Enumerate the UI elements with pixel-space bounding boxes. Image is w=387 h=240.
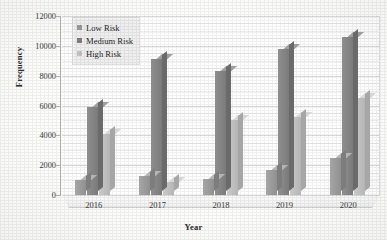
y-axis-tick-label: 2000 xyxy=(12,161,56,170)
bar-front-face xyxy=(330,158,341,195)
bar-side-face xyxy=(214,171,219,191)
bar xyxy=(266,170,277,195)
bar-side-face xyxy=(353,29,358,191)
x-axis-tick-label: 2018 xyxy=(191,200,251,210)
y-axis-tick-mark xyxy=(56,16,61,17)
y-axis-tick-label: 12000 xyxy=(12,12,56,21)
legend-color-swatch xyxy=(77,51,82,56)
y-axis-tick-mark xyxy=(56,76,61,77)
y-axis-tick-mark xyxy=(56,106,61,107)
y-axis-tick-mark xyxy=(56,135,61,136)
legend-item[interactable]: Medium Risk xyxy=(77,34,133,47)
y-axis-tick-mark xyxy=(56,165,61,166)
y-axis-tick-mark xyxy=(56,195,61,196)
bar xyxy=(75,180,86,195)
bar-side-face xyxy=(238,113,243,191)
bar-group xyxy=(139,16,174,195)
bar xyxy=(139,176,150,195)
bar-side-face xyxy=(289,41,294,191)
legend-color-swatch xyxy=(77,38,82,43)
bar-side-face xyxy=(341,150,346,191)
y-axis-tick-labels: 020004000600080001000012000 xyxy=(12,0,56,240)
bar-group xyxy=(266,16,301,195)
x-axis-tick-label: 2017 xyxy=(127,200,187,210)
bar-front-face xyxy=(266,170,277,195)
legend-item[interactable]: High Risk xyxy=(77,47,133,60)
chart-figure: Frequency 020004000600080001000012000 20… xyxy=(0,0,387,240)
y-axis-tick-mark xyxy=(56,46,61,47)
legend-label: Medium Risk xyxy=(86,36,133,46)
bar-group xyxy=(203,16,238,195)
y-axis-tick-label: 6000 xyxy=(12,101,56,110)
bar xyxy=(330,158,341,195)
bar-side-face xyxy=(301,110,306,191)
bar-front-face xyxy=(75,180,86,195)
legend-item[interactable]: Low Risk xyxy=(77,21,133,34)
legend-color-swatch xyxy=(77,25,82,30)
bar-side-face xyxy=(277,162,282,191)
legend-label: High Risk xyxy=(86,49,121,59)
bar-group xyxy=(330,16,365,195)
x-axis-tick-label: 2016 xyxy=(64,200,124,210)
y-axis-tick-label: 4000 xyxy=(12,131,56,140)
y-axis-tick-label: 10000 xyxy=(12,41,56,50)
bar-side-face xyxy=(162,51,167,191)
bar-side-face xyxy=(98,99,103,191)
bar-side-face xyxy=(226,63,231,191)
y-axis-tick-label: 0 xyxy=(12,191,56,200)
bar-front-face xyxy=(203,179,214,195)
legend-label: Low Risk xyxy=(86,23,120,33)
bar-side-face xyxy=(110,126,115,191)
chart-legend: Low RiskMedium RiskHigh Risk xyxy=(72,17,140,65)
y-axis-tick-label: 8000 xyxy=(12,71,56,80)
x-axis-tick-label: 2020 xyxy=(318,200,378,210)
x-axis-title: Year xyxy=(0,222,387,232)
bar-front-face xyxy=(139,176,150,195)
bar xyxy=(203,179,214,195)
bar-side-face xyxy=(150,168,155,191)
bar-side-face xyxy=(365,90,370,191)
x-axis-tick-label: 2019 xyxy=(255,200,315,210)
